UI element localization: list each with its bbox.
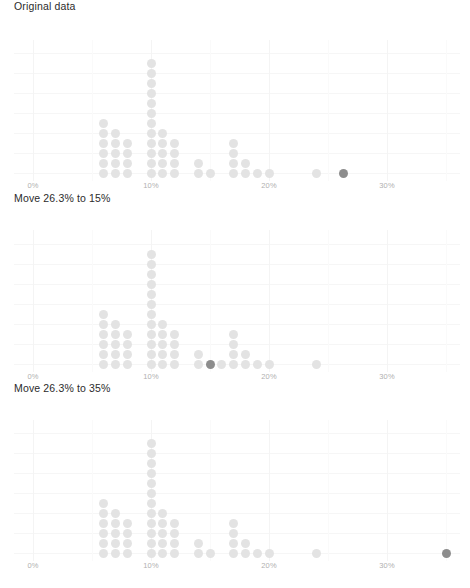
data-dot xyxy=(147,139,156,148)
gridline-vertical-minor xyxy=(328,420,329,561)
data-dot xyxy=(99,129,108,138)
data-dot xyxy=(229,350,238,359)
data-dot xyxy=(170,549,179,558)
x-axis-tick-label: 20% xyxy=(261,181,277,190)
data-dot xyxy=(229,159,238,168)
data-dot xyxy=(265,169,274,178)
data-dot xyxy=(194,169,203,178)
data-dot xyxy=(147,519,156,528)
data-dot xyxy=(111,539,120,548)
data-dot xyxy=(229,149,238,158)
data-dot xyxy=(147,449,156,458)
x-axis-tick-label: 30% xyxy=(379,372,395,381)
x-axis-tick-label: 0% xyxy=(27,372,38,381)
data-dot xyxy=(123,519,132,528)
data-dot xyxy=(99,119,108,128)
data-dot xyxy=(147,280,156,289)
x-axis-tick-label: 10% xyxy=(143,561,159,570)
data-dot xyxy=(147,129,156,138)
data-dot xyxy=(147,169,156,178)
data-dot xyxy=(147,89,156,98)
data-dot-highlighted xyxy=(206,360,215,369)
gridline-horizontal xyxy=(14,433,460,434)
x-axis: 0%10%20%30% xyxy=(0,561,470,575)
data-dot xyxy=(312,169,321,178)
data-dot xyxy=(158,129,167,138)
data-dot xyxy=(312,360,321,369)
data-dot xyxy=(229,330,238,339)
data-dot xyxy=(241,159,250,168)
gridline-horizontal xyxy=(14,473,460,474)
data-dot xyxy=(170,139,179,148)
data-dot xyxy=(99,340,108,349)
data-dot xyxy=(111,159,120,168)
gridline-vertical-minor xyxy=(210,420,211,561)
data-dot xyxy=(147,459,156,468)
plot-area xyxy=(0,230,470,372)
plot-area xyxy=(0,420,470,561)
data-dot xyxy=(241,539,250,548)
data-dot xyxy=(147,99,156,108)
data-dot xyxy=(158,549,167,558)
gridline-vertical xyxy=(387,230,388,372)
data-dot xyxy=(147,310,156,319)
data-dot xyxy=(229,539,238,548)
gridline-vertical-minor xyxy=(328,40,329,181)
x-axis-tick-label: 0% xyxy=(27,181,38,190)
data-dot xyxy=(111,129,120,138)
data-dot xyxy=(158,350,167,359)
gridline-vertical-minor xyxy=(328,230,329,372)
data-dot xyxy=(99,330,108,339)
gridline-vertical-minor xyxy=(210,230,211,372)
gridline-horizontal xyxy=(14,324,460,325)
data-dot xyxy=(170,519,179,528)
data-dot xyxy=(111,139,120,148)
data-dot xyxy=(123,360,132,369)
data-dot xyxy=(147,509,156,518)
data-dot xyxy=(99,539,108,548)
gridline-horizontal xyxy=(14,284,460,285)
data-dot xyxy=(158,169,167,178)
gridline-vertical-minor xyxy=(446,40,447,181)
gridline-vertical-minor xyxy=(92,230,93,372)
data-dot xyxy=(147,119,156,128)
data-dot xyxy=(158,330,167,339)
data-dot xyxy=(147,479,156,488)
data-dot-highlighted xyxy=(339,169,348,178)
data-dot xyxy=(158,509,167,518)
data-dot xyxy=(253,169,262,178)
data-dot xyxy=(217,360,226,369)
data-dot xyxy=(99,509,108,518)
x-axis-tick-label: 30% xyxy=(379,181,395,190)
data-dot xyxy=(241,350,250,359)
data-dot xyxy=(170,340,179,349)
data-dot xyxy=(147,330,156,339)
panel-title: Move 26.3% to 15% xyxy=(14,192,111,205)
data-dot xyxy=(111,360,120,369)
gridline-horizontal xyxy=(14,73,460,74)
gridline-vertical xyxy=(387,40,388,181)
gridline-horizontal xyxy=(14,113,460,114)
data-dot xyxy=(147,320,156,329)
data-dot xyxy=(99,360,108,369)
data-dot xyxy=(111,509,120,518)
data-dot xyxy=(265,549,274,558)
data-dot xyxy=(158,529,167,538)
data-dot xyxy=(111,149,120,158)
data-dot xyxy=(158,149,167,158)
data-dot xyxy=(170,360,179,369)
data-dot xyxy=(123,149,132,158)
data-dot xyxy=(111,350,120,359)
data-dot xyxy=(229,340,238,349)
data-dot xyxy=(194,360,203,369)
gridline-horizontal xyxy=(14,513,460,514)
data-dot xyxy=(229,549,238,558)
gridline-horizontal xyxy=(14,304,460,305)
gridline-horizontal xyxy=(14,93,460,94)
data-dot xyxy=(147,499,156,508)
data-dot xyxy=(170,350,179,359)
data-dot xyxy=(229,169,238,178)
data-dot xyxy=(147,159,156,168)
data-dot xyxy=(147,69,156,78)
gridline-horizontal xyxy=(14,453,460,454)
